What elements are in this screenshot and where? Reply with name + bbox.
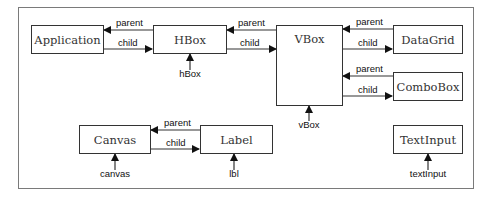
edge-label-child: child bbox=[358, 84, 378, 95]
edge-label-child: child bbox=[166, 137, 186, 148]
node-canvas: Canvas bbox=[79, 125, 151, 154]
node-label: Canvas bbox=[94, 133, 136, 147]
node-label: TextInput bbox=[400, 133, 456, 147]
object-reference-diagram: Application HBox VBox DataGrid ComboBox … bbox=[0, 0, 492, 200]
ref-label-textinput: textInput bbox=[410, 168, 446, 179]
node-label: VBox bbox=[294, 32, 324, 46]
node-label: HBox bbox=[174, 33, 206, 47]
ref-label-hbox: hBox bbox=[179, 68, 201, 79]
edge-label-parent: parent bbox=[164, 117, 191, 128]
edge-label-parent: parent bbox=[238, 17, 265, 28]
node-label: Label bbox=[200, 125, 273, 154]
ref-label-canvas: canvas bbox=[100, 168, 130, 179]
node-vbox: VBox bbox=[276, 25, 343, 106]
edge-label-child: child bbox=[240, 37, 260, 48]
node-application: Application bbox=[31, 25, 104, 54]
node-combobox: ComboBox bbox=[393, 72, 463, 101]
node-datagrid: DataGrid bbox=[393, 25, 463, 54]
node-label: Label bbox=[220, 133, 252, 147]
ref-label-vbox: vBox bbox=[298, 119, 319, 130]
node-hbox: HBox bbox=[153, 25, 227, 54]
edge-label-child: child bbox=[118, 37, 138, 48]
ref-label-lbl: lbl bbox=[229, 168, 239, 179]
edge-label-parent: parent bbox=[116, 17, 143, 28]
node-label: DataGrid bbox=[401, 33, 454, 47]
edge-label-parent: parent bbox=[356, 63, 383, 74]
edge-label-child: child bbox=[358, 37, 378, 48]
edge-label-parent: parent bbox=[356, 16, 383, 27]
node-label: ComboBox bbox=[397, 80, 460, 94]
node-textinput: TextInput bbox=[393, 125, 463, 154]
node-label: Application bbox=[34, 33, 100, 47]
